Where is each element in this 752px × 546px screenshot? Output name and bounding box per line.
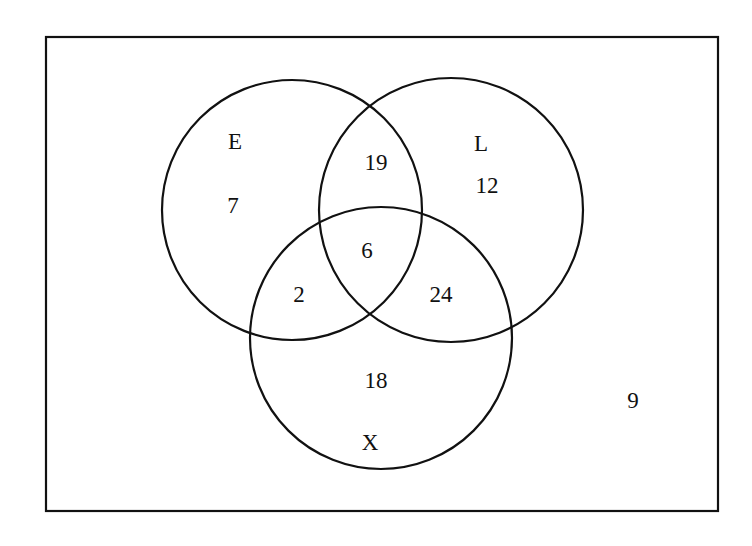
set-x-only-count: 18 bbox=[365, 368, 388, 393]
e-x-intersection-count: 2 bbox=[293, 282, 305, 307]
l-x-intersection-count: 24 bbox=[430, 282, 454, 307]
e-l-x-intersection-count: 6 bbox=[361, 238, 373, 263]
outside-count: 9 bbox=[627, 388, 639, 413]
universe-rectangle bbox=[46, 37, 718, 511]
set-x-circle bbox=[250, 207, 512, 469]
set-e-only-count: 7 bbox=[227, 193, 239, 218]
venn-diagram: E 7 L 12 19 6 2 24 18 X 9 bbox=[0, 0, 752, 546]
set-e-label: E bbox=[228, 129, 242, 154]
e-l-intersection-count: 19 bbox=[365, 150, 388, 175]
set-x-label: X bbox=[362, 430, 379, 455]
set-e-circle bbox=[162, 80, 422, 340]
set-l-label: L bbox=[474, 131, 488, 156]
set-l-only-count: 12 bbox=[476, 173, 499, 198]
